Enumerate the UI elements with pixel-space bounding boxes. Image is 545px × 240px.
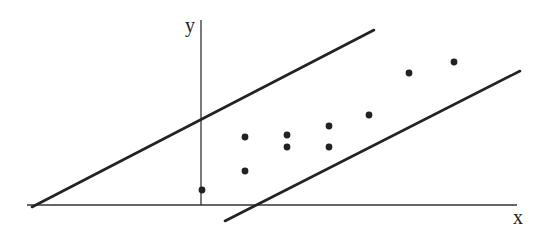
y-axis-label: y [185, 14, 195, 37]
data-point [366, 112, 373, 119]
data-points [199, 59, 458, 194]
boundary-lines [32, 30, 520, 221]
data-point [242, 134, 249, 141]
data-point [326, 144, 333, 151]
data-point [406, 70, 413, 77]
data-point [242, 168, 249, 175]
scatter-diagram: x y [0, 0, 545, 240]
data-point [284, 144, 291, 151]
lower-boundary-line [225, 71, 520, 221]
data-point [199, 187, 206, 194]
x-axis-label: x [513, 206, 523, 228]
data-point [326, 123, 333, 130]
data-point [451, 59, 458, 66]
upper-boundary-line [32, 30, 374, 207]
data-point [284, 132, 291, 139]
